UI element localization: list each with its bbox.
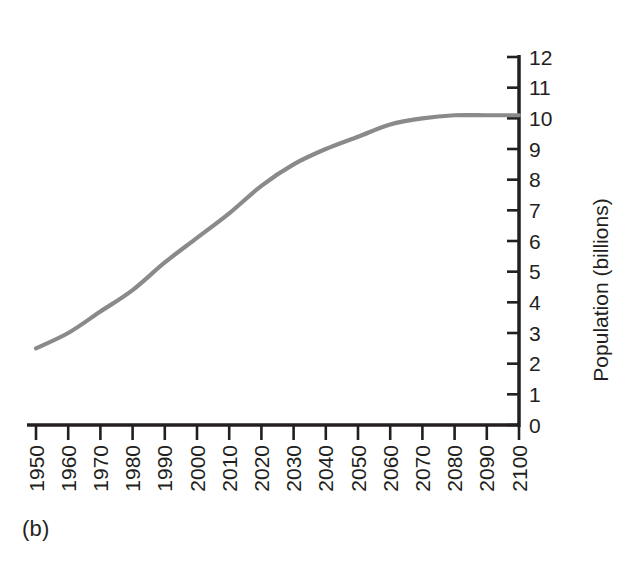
y-axis-tick-label: 8 (529, 168, 541, 191)
x-axis-tick-label: 1980 (121, 445, 144, 492)
x-axis-tick-label: 2090 (475, 445, 498, 492)
y-axis-tick-label: 9 (529, 138, 541, 161)
x-axis-tick-label: 2070 (411, 445, 434, 492)
x-axis-tick-labels: 1950196019701980199020002010202020302040… (25, 445, 531, 492)
x-axis-tick-label: 2060 (379, 445, 402, 492)
population-line-chart: 1950196019701980199020002010202020302040… (0, 0, 634, 566)
x-axis-tick-label: 2030 (282, 445, 305, 492)
y-axis-tick-label: 7 (529, 199, 541, 222)
y-axis-tick-labels: 0123456789101112 (529, 46, 552, 437)
y-axis-tick-label: 3 (529, 322, 541, 345)
y-axis-tick-label: 6 (529, 230, 541, 253)
y-axis-tick-label: 10 (529, 107, 552, 130)
y-axis-tick-label: 12 (529, 46, 552, 69)
y-axis-tick-label: 5 (529, 260, 541, 283)
x-axis-tick-label: 1970 (89, 445, 112, 492)
chart-axes (27, 55, 520, 427)
y-axis-tick-label: 2 (529, 352, 541, 375)
x-axis-tick-label: 1950 (25, 445, 48, 492)
population-projection-figure: 1950196019701980199020002010202020302040… (0, 0, 634, 566)
x-axis-tick-label: 2100 (508, 445, 531, 492)
x-axis-tick-label: 1990 (153, 445, 176, 492)
y-axis-tick-label: 11 (529, 76, 551, 99)
x-axis-tick-label: 2050 (347, 445, 370, 492)
x-axis-tick-label: 2020 (250, 445, 273, 492)
y-axis-tick-label: 1 (529, 383, 541, 406)
population-curve (36, 115, 519, 348)
x-axis-tick-label: 2040 (314, 445, 337, 492)
x-axis-tick-label: 2000 (186, 445, 209, 492)
x-axis-tick-label: 2080 (443, 445, 466, 492)
x-axis-tick-label: 1960 (57, 445, 80, 492)
x-axis-tick-label: 2010 (218, 445, 241, 492)
y-axis-tick-label: 4 (529, 291, 541, 314)
y-axis-label: Population (billions) (589, 198, 612, 381)
x-axis-ticks (36, 426, 519, 440)
panel-caption: (b) (22, 516, 50, 542)
y-axis-tick-label: 0 (529, 414, 541, 437)
